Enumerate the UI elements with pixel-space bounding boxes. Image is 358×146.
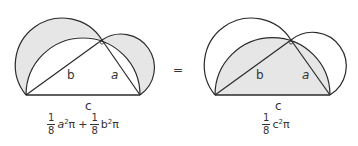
numerator: 1 [262, 113, 270, 125]
label-b-right: b [256, 69, 264, 81]
var-b: b [101, 118, 108, 131]
denominator: 8 [48, 125, 54, 136]
label-a-right: a [302, 69, 309, 81]
equals-sign: = [173, 64, 183, 76]
shaded-semicircle-c [215, 38, 330, 95]
formula-left: 1 8 a2π + 1 8 b2π [47, 113, 119, 136]
lune-b [15, 18, 102, 95]
fraction-1-8: 1 8 [262, 113, 270, 136]
fraction-1-8: 1 8 [90, 113, 98, 136]
denominator: 8 [263, 125, 269, 136]
pi: π [69, 118, 76, 131]
label-c-left: c [85, 100, 92, 112]
formula-right: 1 8 c2π [262, 113, 290, 136]
left-figure [15, 18, 154, 95]
label-c-right: c [275, 100, 282, 112]
lune-a [102, 34, 154, 95]
pi: π [112, 118, 119, 131]
right-figure [204, 18, 346, 95]
term-b-squared-pi: b2π [101, 118, 119, 131]
label-b-left: b [67, 69, 75, 81]
denominator: 8 [91, 125, 97, 136]
numerator: 1 [90, 113, 98, 125]
plus-sign: + [78, 118, 87, 131]
fraction-1-8: 1 8 [47, 113, 55, 136]
term-c-squared-pi: c2π [272, 118, 289, 131]
numerator: 1 [47, 113, 55, 125]
pi: π [283, 118, 290, 131]
term-a-squared-pi: a2π [57, 118, 75, 131]
label-a-left: a [111, 69, 118, 81]
